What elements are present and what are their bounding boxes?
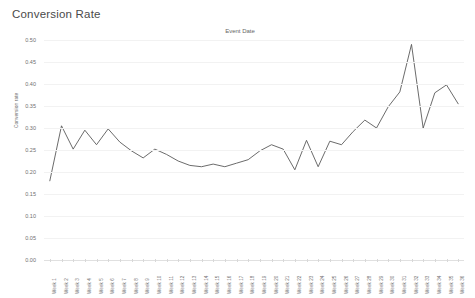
x-axis-tick: Week 36 [460,276,465,294]
page-title: Conversion Rate [12,8,101,20]
plot-area [44,40,464,260]
x-axis-tick-mark [62,259,63,262]
grid-line [44,260,464,261]
x-axis-tick: Week 3 [75,278,80,294]
grid-line [44,172,464,173]
x-axis-tick: Week 12 [180,276,185,294]
x-axis-tick: Week 11 [169,276,174,294]
x-axis-tick-mark [178,259,179,262]
x-axis-tick-mark [85,259,86,262]
x-axis-tick-labels: Week 1Week 2Week 3Week 4Week 5Week 6Week… [44,262,464,298]
grid-line [44,194,464,195]
x-axis-tick-mark [97,259,98,262]
x-axis-tick: Week 25 [332,276,337,294]
x-axis-tick: Week 17 [239,276,244,294]
x-axis-tick-mark [412,259,413,262]
y-axis-tick: 0.00 [0,257,36,263]
x-axis-tick: Week 26 [344,276,349,294]
x-axis-tick-mark [435,259,436,262]
x-axis-tick-mark [202,259,203,262]
x-axis-tick: Week 6 [110,278,115,294]
x-axis-tick-mark [388,259,389,262]
y-axis-tick: 0.50 [0,37,36,43]
x-axis-tick: Week 33 [425,276,430,294]
x-axis-tick: Week 29 [379,276,384,294]
x-axis-tick: Week 1 [52,278,57,294]
grid-line [44,62,464,63]
x-axis-tick-mark [365,259,366,262]
x-axis-tick-mark [295,259,296,262]
grid-line [44,40,464,41]
x-axis-tick-mark [353,259,354,262]
x-axis-tick: Week 35 [449,276,454,294]
x-axis-tick-mark [120,259,121,262]
x-axis-tick: Week 7 [122,278,127,294]
grid-line [44,128,464,129]
y-axis-tick: 0.05 [0,235,36,241]
x-axis-tick-mark [73,259,74,262]
x-axis-tick-mark [190,259,191,262]
y-axis-tick: 0.35 [0,103,36,109]
x-axis-tick-mark [132,259,133,262]
x-axis-tick-mark [237,259,238,262]
x-axis-tick-mark [400,259,401,262]
x-axis-tick-mark [283,259,284,262]
x-axis-tick-mark [377,259,378,262]
x-axis-tick-mark [447,259,448,262]
x-axis-tick: Week 20 [274,276,279,294]
x-axis-tick-mark [272,259,273,262]
x-axis-tick-mark [260,259,261,262]
x-axis-tick: Week 13 [192,276,197,294]
x-axis-tick: Week 22 [297,276,302,294]
x-axis-tick: Week 19 [262,276,267,294]
y-axis-tick: 0.20 [0,169,36,175]
x-axis-tick: Week 15 [215,276,220,294]
x-axis-tick: Week 34 [437,276,442,294]
grid-line [44,150,464,151]
column-header-event-date: Event Date [200,28,280,34]
chart-viz: Conversion Rate Event Date Conversion ra… [0,0,475,298]
y-axis-tick: 0.10 [0,213,36,219]
y-axis-tick: 0.30 [0,125,36,131]
grid-line [44,216,464,217]
x-axis-tick-mark [318,259,319,262]
x-axis-tick: Week 8 [134,278,139,294]
y-axis-tick: 0.15 [0,191,36,197]
x-axis-tick: Week 28 [367,276,372,294]
x-axis-tick-mark [423,259,424,262]
x-axis-tick: Week 2 [64,278,69,294]
x-axis-tick-mark [167,259,168,262]
x-axis-tick-mark [248,259,249,262]
x-axis-tick: Week 9 [145,278,150,294]
x-axis-tick-mark [50,259,51,262]
x-axis-tick-mark [213,259,214,262]
grid-line [44,84,464,85]
x-axis-tick: Week 27 [355,276,360,294]
x-axis-tick-mark [307,259,308,262]
x-axis-tick: Week 4 [87,278,92,294]
x-axis-tick: Week 31 [402,276,407,294]
y-axis-tick: 0.25 [0,147,36,153]
grid-line [44,238,464,239]
x-axis-tick-mark [108,259,109,262]
x-axis-tick: Week 21 [285,276,290,294]
x-axis-tick-mark [330,259,331,262]
x-axis-tick-mark [225,259,226,262]
x-axis-tick: Week 24 [320,276,325,294]
grid-line [44,106,464,107]
x-axis-tick-mark [143,259,144,262]
y-axis-tick: 0.45 [0,59,36,65]
x-axis-tick-mark [342,259,343,262]
x-axis-tick: Week 30 [390,276,395,294]
x-axis-tick-mark [458,259,459,262]
y-axis-tick: 0.40 [0,81,36,87]
x-axis-tick: Week 18 [250,276,255,294]
x-axis-tick: Week 32 [414,276,419,294]
x-axis-tick: Week 23 [309,276,314,294]
x-axis-tick: Week 14 [204,276,209,294]
x-axis-tick: Week 10 [157,276,162,294]
x-axis-tick: Week 16 [227,276,232,294]
y-axis-tick-labels: 0.500.450.400.350.300.250.200.150.100.05… [0,40,40,260]
x-axis-tick: Week 5 [99,278,104,294]
x-axis-tick-mark [155,259,156,262]
